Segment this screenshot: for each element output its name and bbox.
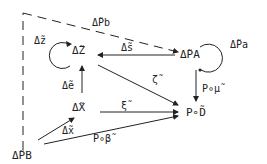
edge-label-pbeta: P∘β̃: [93, 134, 111, 144]
edge-label-dpb: Δ̃Pb: [92, 18, 110, 28]
diagram-edges: [0, 0, 267, 164]
edge-label-zeta: ζ̃: [152, 75, 158, 85]
edge-label-ds: Δ̃s: [121, 43, 133, 53]
node-dpa: Δ̃PA: [180, 50, 200, 60]
node-dz: Δ̃Z: [72, 46, 85, 56]
edge-label-de: Δ̃e: [62, 81, 74, 91]
node-dpb: Δ̃PB: [12, 151, 32, 161]
edge-label-xi: ξ̃: [121, 101, 127, 111]
node-dx: Δ̃X: [72, 103, 85, 113]
edge-label-dz-loop: Δ̃z: [34, 36, 46, 46]
edge-label-pmu: P∘μ̃: [202, 84, 220, 94]
loop-arrow-dpa: [200, 44, 222, 72]
edge-label-dpa-loop: Δ̃Pa: [230, 40, 248, 50]
node-pd: P∘D̃: [186, 108, 206, 118]
edge-label-dx: Δ̃x: [62, 126, 74, 136]
